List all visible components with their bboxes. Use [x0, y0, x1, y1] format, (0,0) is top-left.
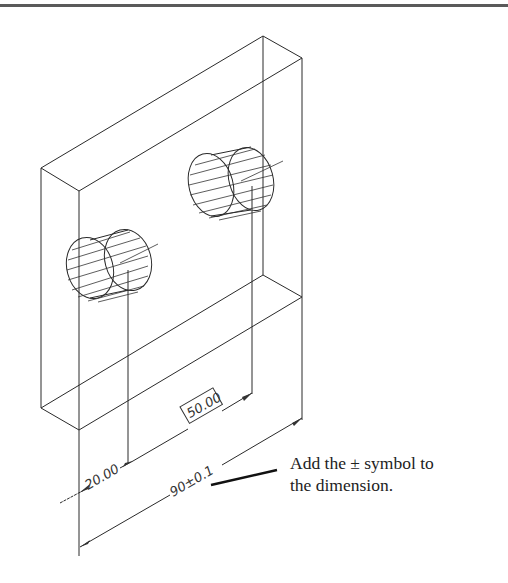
callout-line-1: Add the ± symbol to — [290, 452, 434, 474]
callout-leader — [211, 470, 277, 485]
callout-note: Add the ± symbol to the dimension. — [290, 452, 434, 496]
dim-20: 20.00 — [82, 461, 122, 493]
dim-90: 90±0.1 — [167, 463, 216, 500]
extension-lines — [79, 186, 302, 556]
right-hole — [181, 142, 283, 221]
left-hole — [60, 224, 158, 304]
dim-50-basic-box: 50.00 — [180, 387, 224, 424]
plate-outline — [41, 36, 302, 430]
callout-line-2: the dimension. — [290, 474, 434, 496]
